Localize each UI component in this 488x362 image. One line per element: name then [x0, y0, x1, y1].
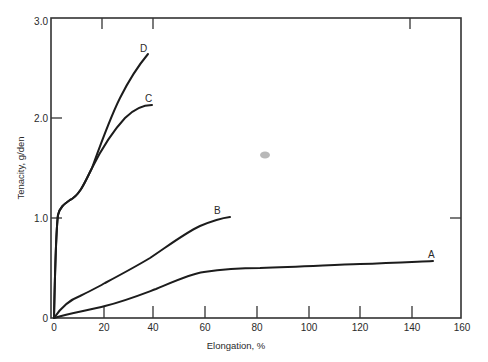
svg-text:60: 60: [199, 322, 211, 333]
svg-text:2.0: 2.0: [34, 113, 48, 124]
x-tick-labels: 0 20 40 60 80 100 120 140 160: [51, 322, 471, 333]
svg-text:120: 120: [352, 322, 369, 333]
curve-b: [54, 217, 230, 318]
svg-text:100: 100: [301, 322, 318, 333]
svg-text:0: 0: [42, 313, 48, 324]
x-axis-title: Elongation, %: [207, 340, 266, 351]
x-axis-ticks: [102, 18, 412, 318]
svg-text:80: 80: [251, 322, 263, 333]
svg-text:140: 140: [404, 322, 421, 333]
curve-d: [54, 54, 148, 318]
curve-label-b: B: [214, 205, 221, 216]
svg-text:40: 40: [147, 322, 159, 333]
y-tick-labels: 0 1.0 2.0 3.0: [34, 16, 48, 324]
tenacity-elongation-chart: 0 20 40 60 80 100 120 140 160 0 1.0 2.0 …: [0, 0, 488, 362]
svg-text:160: 160: [454, 322, 471, 333]
curve-a: [54, 261, 433, 318]
scan-smudge: [260, 152, 270, 159]
svg-text:0: 0: [51, 322, 57, 333]
curve-label-a: A: [428, 249, 435, 260]
plot-frame: [51, 18, 461, 318]
y-axis-title: Tenacity, g/den: [15, 136, 26, 199]
svg-text:20: 20: [98, 322, 110, 333]
svg-text:1.0: 1.0: [34, 213, 48, 224]
curve-label-d: D: [140, 43, 147, 54]
svg-text:3.0: 3.0: [34, 16, 48, 27]
curve-label-c: C: [145, 93, 152, 104]
